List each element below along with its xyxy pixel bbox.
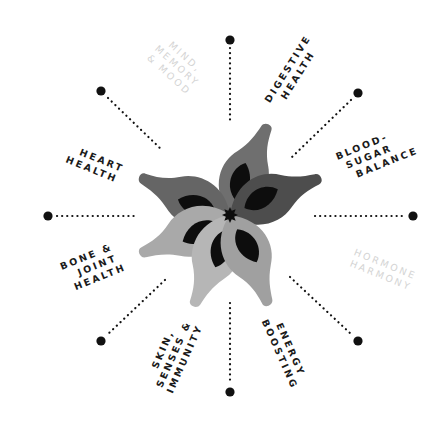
spoke-right [315,211,418,220]
flower [129,114,329,316]
spoke-top-left [96,86,163,151]
dotted-line [290,277,351,334]
diagram-graphic [0,0,447,428]
spoke-bottom-left [96,280,165,346]
spoke-top [225,35,234,122]
spoke-bottom [225,303,234,397]
spoke-left [43,211,136,220]
endpoint-dot-icon [96,336,105,345]
endpoint-dot-icon [408,211,417,220]
endpoint-dot-icon [96,86,105,95]
dotted-line [108,98,163,151]
spoke-bottom-right [290,277,363,346]
endpoint-dot-icon [43,211,52,220]
endpoint-dot-icon [225,387,234,396]
wellness-flower-diagram: MIND, MEMORY & MOOD DIGESTIVE HEALTH BLO… [0,0,447,428]
endpoint-dot-icon [353,88,362,97]
dotted-line [108,280,165,334]
center-star-icon [222,207,238,223]
endpoint-dot-icon [225,35,234,44]
endpoint-dot-icon [353,336,362,345]
